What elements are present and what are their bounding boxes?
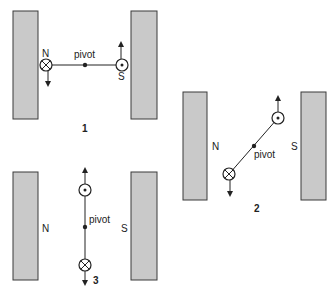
pivot-point	[83, 225, 87, 229]
magnet-south-1	[131, 11, 157, 119]
diagram-number: 2	[254, 203, 260, 214]
dot-coil-icon	[272, 112, 284, 124]
cross-coil-icon	[79, 259, 91, 271]
magnet-north-2	[183, 92, 207, 200]
magnet-north-1	[13, 11, 38, 119]
pole-label-s: S	[118, 71, 125, 82]
pole-label-n: N	[42, 223, 49, 234]
pole-label-n: N	[212, 141, 219, 152]
cross-coil-icon	[40, 59, 52, 71]
coil-rotation-diagram: pivot N S 1 pivot N S 2	[0, 0, 333, 291]
diagram-1: pivot N S 1	[13, 11, 157, 134]
pivot-point	[252, 144, 256, 148]
magnet-south-3	[131, 172, 157, 280]
dot-coil-icon	[116, 59, 128, 71]
pivot-label: pivot	[89, 214, 110, 225]
pivot-label: pivot	[74, 49, 95, 60]
diagram-number: 1	[82, 123, 88, 134]
pole-label-s: S	[291, 141, 298, 152]
cross-coil-icon	[223, 168, 235, 180]
diagram-3: pivot N S 3	[13, 170, 157, 286]
pivot-point	[83, 63, 87, 67]
diagram-2: pivot N S 2	[183, 92, 326, 214]
magnet-north-3	[13, 172, 38, 280]
pole-label-s: S	[121, 223, 128, 234]
pivot-label: pivot	[254, 149, 275, 160]
diagram-number: 3	[93, 275, 99, 286]
magnet-south-2	[301, 92, 326, 200]
dot-coil-icon	[79, 184, 91, 196]
pole-label-n: N	[42, 48, 49, 59]
